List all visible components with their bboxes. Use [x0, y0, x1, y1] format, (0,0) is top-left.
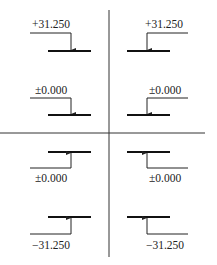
mark-top-right-2: ±0.000 [127, 84, 188, 115]
elevation-label: ±0.000 [35, 84, 67, 96]
elevation-label: ±0.000 [35, 172, 67, 184]
mark-bottom-right-2: −31.250 [127, 217, 188, 251]
elevation-label: ±0.000 [149, 172, 181, 184]
elevation-label: +31.250 [32, 18, 70, 30]
mark-bottom-right-1: ±0.000 [127, 152, 188, 184]
elevation-diagram: +31.250 ±0.000 +31.250 ±0.000 ±0.000 −31… [0, 0, 217, 265]
mark-top-right-1: +31.250 [127, 18, 188, 51]
elevation-label: ±0.000 [149, 84, 181, 96]
elevation-label: +31.250 [145, 18, 183, 30]
mark-top-left-1: +31.250 [30, 18, 91, 51]
elevation-label: −31.250 [32, 239, 70, 251]
mark-bottom-left-1: ±0.000 [30, 152, 91, 184]
mark-bottom-left-2: −31.250 [30, 217, 91, 251]
mark-top-left-2: ±0.000 [30, 84, 91, 115]
elevation-label: −31.250 [146, 239, 184, 251]
